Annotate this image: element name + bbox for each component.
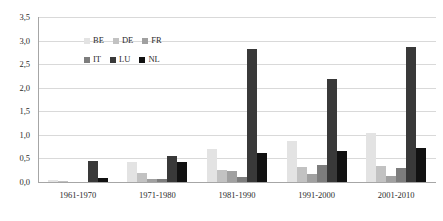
bar-it: [317, 165, 327, 182]
legend-label: LU: [119, 55, 130, 64]
chart-legend: BEDEFR ITLUNL: [84, 34, 180, 72]
y-axis-tick-label: 3,0: [19, 36, 30, 46]
legend-item-nl[interactable]: NL: [139, 55, 159, 64]
y-axis-tick-label: 1,5: [19, 106, 30, 116]
bar-it: [396, 168, 406, 182]
legend-label: NL: [148, 55, 159, 64]
bar-be: [127, 162, 137, 182]
bar-nl: [257, 153, 267, 182]
legend-swatch-icon: [142, 38, 148, 44]
bar-be: [366, 133, 376, 182]
bar-de: [297, 167, 307, 182]
legend-swatch-icon: [113, 38, 119, 44]
legend-swatch-icon: [110, 57, 116, 63]
bar-chart: 0,00,51,01,52,02,53,03,5 1961-19701971-1…: [0, 0, 443, 221]
bar-lu: [406, 47, 416, 182]
legend-swatch-icon: [139, 57, 145, 63]
bar-de: [376, 166, 386, 182]
legend-label: FR: [151, 36, 161, 45]
y-axis-tick-label: 3,5: [19, 12, 30, 22]
bar-de: [137, 173, 147, 182]
bar-fr: [307, 174, 317, 182]
bar-fr: [227, 171, 237, 182]
bar-nl: [337, 151, 347, 182]
y-axis-tick-label: 2,0: [19, 83, 30, 93]
y-axis-tick-label: 0,0: [19, 177, 30, 187]
x-axis-line: [38, 182, 436, 183]
bar-be: [207, 149, 217, 182]
bar-nl: [416, 148, 426, 182]
legend-item-lu[interactable]: LU: [110, 55, 130, 64]
legend-item-fr[interactable]: FR: [142, 36, 161, 45]
legend-row-2: ITLUNL: [84, 53, 180, 66]
y-axis-labels: 0,00,51,01,52,02,53,03,5: [0, 0, 34, 221]
legend-swatch-icon: [84, 38, 90, 44]
bar-group: [207, 17, 267, 182]
legend-item-it[interactable]: IT: [84, 55, 101, 64]
y-axis-tick-label: 1,0: [19, 130, 30, 140]
bar-group-bars: [366, 17, 426, 182]
legend-item-be[interactable]: BE: [84, 36, 104, 45]
x-axis-tick-label: 1971-1980: [139, 190, 176, 200]
bar-nl: [177, 162, 187, 182]
x-axis-tick-label: 1981-1990: [219, 190, 256, 200]
y-axis-line: [38, 17, 39, 183]
x-axis-tick-label: 1961-1970: [59, 190, 96, 200]
bar-be: [287, 141, 297, 182]
legend-row-1: BEDEFR: [84, 34, 180, 47]
legend-label: DE: [122, 36, 133, 45]
bar-lu: [88, 161, 98, 182]
bar-group-bars: [287, 17, 347, 182]
legend-swatch-icon: [84, 57, 90, 63]
x-axis-tick-label: 1991-2000: [298, 190, 335, 200]
legend-label: BE: [93, 36, 104, 45]
y-axis-tick-label: 0,5: [19, 153, 30, 163]
y-axis-tick-label: 2,5: [19, 59, 30, 69]
bar-group: [366, 17, 426, 182]
legend-item-de[interactable]: DE: [113, 36, 133, 45]
legend-label: IT: [93, 55, 101, 64]
bar-de: [217, 170, 227, 182]
bar-lu: [247, 49, 257, 182]
bar-group: [287, 17, 347, 182]
bar-group-bars: [207, 17, 267, 182]
bar-lu: [327, 79, 337, 182]
x-axis-tick-label: 2001-2010: [378, 190, 415, 200]
bar-lu: [167, 156, 177, 182]
